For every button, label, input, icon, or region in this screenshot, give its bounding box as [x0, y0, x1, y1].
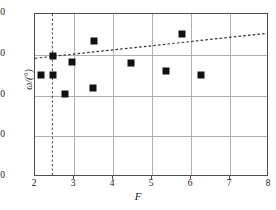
data-point-marker — [127, 59, 134, 66]
y-axis-tick-label: 0 — [0, 171, 5, 181]
plot-frame — [34, 13, 268, 176]
y-axis-tick-label: 40 — [0, 8, 5, 18]
data-point-marker — [49, 53, 56, 60]
trend-line-layer — [35, 14, 267, 175]
x-axis-tick-label: 8 — [266, 179, 271, 189]
trend-line — [35, 33, 267, 58]
x-axis-tick-label: 7 — [227, 179, 232, 189]
y-axis-tick-label: 10 — [0, 131, 5, 141]
data-point-marker — [37, 71, 44, 78]
x-axis-label: F — [0, 190, 276, 202]
data-point-marker — [91, 38, 98, 45]
y-axis-tick-label: 30 — [0, 49, 5, 59]
x-axis-tick-label: 4 — [110, 179, 115, 189]
data-point-marker — [89, 84, 96, 91]
x-axis-tick-label: 5 — [149, 179, 154, 189]
data-point-marker — [179, 30, 186, 37]
data-point-marker — [197, 72, 204, 79]
data-point-marker — [69, 59, 76, 66]
x-axis-tick-label: 3 — [71, 179, 76, 189]
y-axis-tick-label: 20 — [0, 90, 5, 100]
data-point-marker — [49, 71, 56, 78]
data-point-marker — [62, 91, 69, 98]
x-axis-tick-label: 2 — [32, 179, 37, 189]
plot-area — [35, 14, 267, 175]
y-axis-label: ω/(°) — [23, 50, 34, 110]
x-axis-tick-label: 6 — [188, 179, 193, 189]
data-point-marker — [162, 67, 169, 74]
scatter-chart-figure: 010203040 ω/(°) 2345678 F — [0, 0, 276, 210]
